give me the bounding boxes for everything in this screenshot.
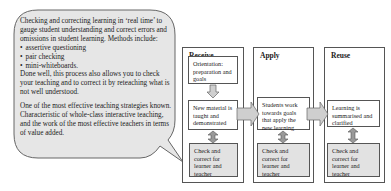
flow-arrows (0, 0, 391, 191)
down-arrow-icon (207, 85, 219, 98)
double-arrow-icon (208, 131, 218, 143)
right-arrow-icon (307, 102, 328, 126)
right-arrow-icon (237, 102, 259, 126)
double-arrow-icon (348, 128, 358, 143)
double-arrow-icon (278, 131, 288, 143)
